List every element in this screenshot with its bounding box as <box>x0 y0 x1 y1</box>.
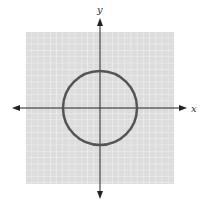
arrow-right-icon <box>179 105 187 111</box>
arrow-left-icon <box>12 105 20 111</box>
x-axis-label: x <box>191 103 197 114</box>
coordinate-plane: x y <box>0 0 206 213</box>
y-axis-label: y <box>96 4 103 15</box>
arrow-up-icon <box>97 18 103 26</box>
arrow-down-icon <box>97 191 103 199</box>
